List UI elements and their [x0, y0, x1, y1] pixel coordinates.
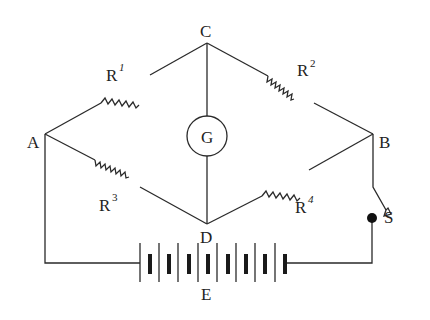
node-label-b: B: [379, 133, 390, 152]
node-label-d: D: [200, 228, 212, 247]
wire-c-r2-b: [207, 43, 373, 134]
battery: [140, 243, 287, 282]
resistor-r2: [267, 76, 294, 100]
resistor-label-r1: R: [106, 66, 118, 85]
switch-label-s: S: [384, 208, 393, 227]
resistor-sup-r2: 2: [310, 57, 316, 69]
wire-d-r4-b: [207, 134, 373, 224]
node-label-a: A: [27, 133, 40, 152]
wire-a-r3-d: [45, 134, 207, 224]
resistor-r3: [95, 160, 129, 178]
resistor-sup-r1: 1: [119, 61, 125, 73]
circuit-diagram: C A B D E S G R 1 R 2 R 3 R 4: [0, 0, 430, 320]
resistor-label-r4: R: [295, 198, 307, 217]
battery-label-e: E: [201, 285, 211, 304]
resistor-label-r3: R: [99, 196, 111, 215]
switch-contact: [367, 213, 377, 223]
node-label-c: C: [200, 22, 211, 41]
resistor-r1: [101, 98, 139, 108]
wire-battery-switch: [287, 219, 372, 263]
wire-a-r1-c: [45, 43, 207, 134]
galvanometer-label-g: G: [201, 128, 213, 147]
wire-a-battery: [45, 134, 140, 263]
resistor-sup-r4: 4: [308, 193, 314, 205]
resistor-label-r2: R: [297, 61, 309, 80]
resistor-sup-r3: 3: [112, 191, 118, 203]
